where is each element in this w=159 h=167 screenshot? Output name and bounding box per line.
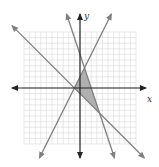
x-axis-label: x	[147, 94, 152, 104]
coordinate-graph: x y	[0, 0, 159, 167]
line-a	[39, 14, 111, 158]
y-axis-label: y	[83, 11, 90, 21]
line-b	[67, 14, 115, 158]
